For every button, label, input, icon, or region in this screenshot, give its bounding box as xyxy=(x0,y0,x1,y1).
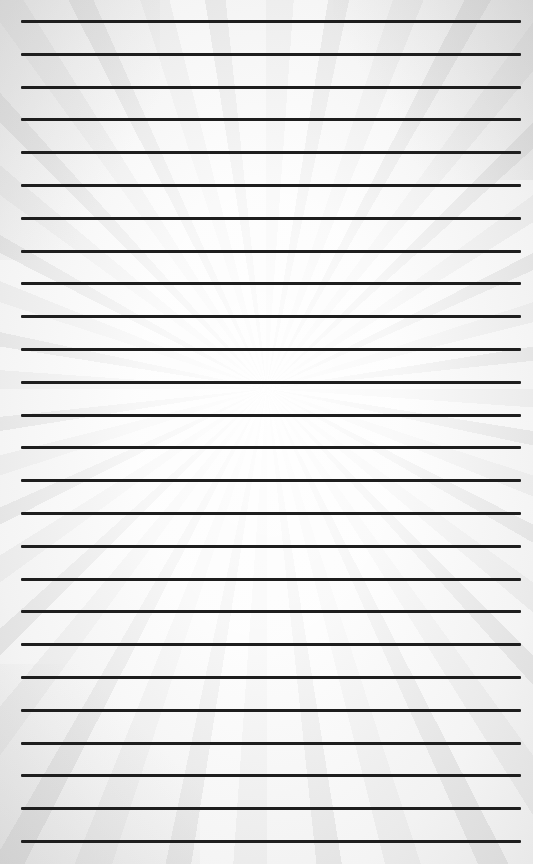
ruled-line xyxy=(21,184,521,187)
ruled-line xyxy=(21,610,521,613)
ruled-line xyxy=(21,118,521,121)
ruled-line xyxy=(21,643,521,646)
ruled-line xyxy=(21,282,521,285)
ruled-line xyxy=(21,709,521,712)
ruled-line xyxy=(21,446,521,449)
ruled-line xyxy=(21,381,521,384)
ruled-line xyxy=(21,545,521,548)
ruled-line xyxy=(21,742,521,745)
ruled-line xyxy=(21,53,521,56)
ruled-line xyxy=(21,840,521,843)
ruled-line xyxy=(21,20,521,23)
ruled-line xyxy=(21,578,521,581)
ruled-line xyxy=(21,676,521,679)
ruled-line xyxy=(21,348,521,351)
ruled-line xyxy=(21,151,521,154)
ruled-line xyxy=(21,479,521,482)
ruled-line xyxy=(21,414,521,417)
background-shade xyxy=(0,0,160,260)
background-shade xyxy=(0,664,200,864)
ruled-line xyxy=(21,807,521,810)
ruled-line xyxy=(21,86,521,89)
ruled-line xyxy=(21,774,521,777)
ruled-line xyxy=(21,217,521,220)
ruled-line xyxy=(21,250,521,253)
ruled-line xyxy=(21,315,521,318)
ruled-line xyxy=(21,512,521,515)
